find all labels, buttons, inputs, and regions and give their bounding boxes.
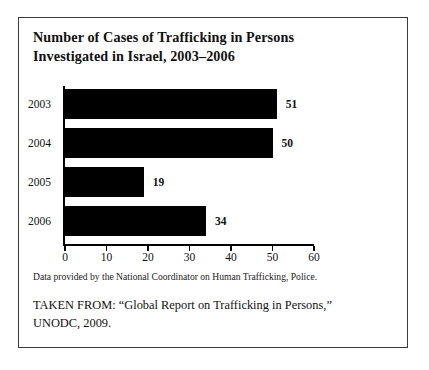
x-tick-label: 0 bbox=[50, 251, 80, 263]
x-tick-label: 40 bbox=[216, 251, 246, 263]
x-tick-label: 20 bbox=[133, 251, 163, 263]
bar-value-label: 50 bbox=[282, 137, 294, 149]
bar-row: 200519 bbox=[19, 167, 409, 197]
bar bbox=[65, 89, 277, 119]
x-tick-label: 10 bbox=[92, 251, 122, 263]
bar bbox=[65, 128, 273, 158]
figure-content: Number of Cases of Trafficking in Person… bbox=[19, 18, 407, 347]
taken-from-note: TAKEN FROM: “Global Report on Traffickin… bbox=[33, 297, 388, 332]
x-tick-label: 60 bbox=[299, 251, 329, 263]
bar-value-label: 51 bbox=[286, 98, 298, 110]
figure-frame: Number of Cases of Trafficking in Person… bbox=[18, 17, 408, 348]
x-tick-label: 30 bbox=[175, 251, 205, 263]
bar-value-label: 19 bbox=[153, 176, 165, 188]
source-line-1: TAKEN FROM: “Global Report on Traffickin… bbox=[33, 297, 388, 315]
bar-row: 200634 bbox=[19, 206, 409, 236]
bar-row: 200351 bbox=[19, 89, 409, 119]
bar-value-label: 34 bbox=[215, 215, 227, 227]
bar-category-label: 2003 bbox=[19, 98, 59, 110]
bar-category-label: 2005 bbox=[19, 176, 59, 188]
bar-row: 200450 bbox=[19, 128, 409, 158]
source-line-2: UNODC, 2009. bbox=[33, 315, 388, 333]
bar-category-label: 2004 bbox=[19, 137, 59, 149]
data-source-note: Data provided by the National Coordinato… bbox=[33, 270, 393, 283]
x-tick-label: 50 bbox=[258, 251, 288, 263]
bar bbox=[65, 206, 206, 236]
bar-category-label: 2006 bbox=[19, 215, 59, 227]
bar bbox=[65, 167, 144, 197]
bar-chart-plot-area: 0102030405060 200351200450200519200634 bbox=[19, 18, 409, 263]
